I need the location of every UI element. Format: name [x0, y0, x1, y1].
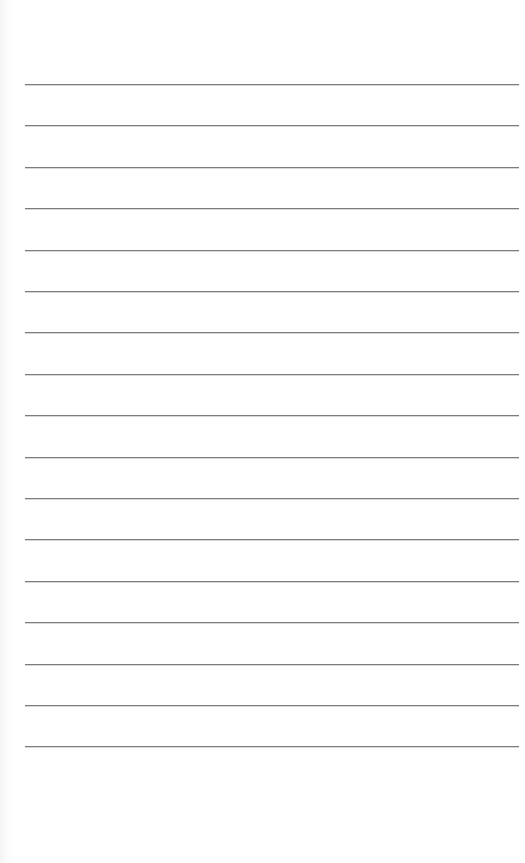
ruled-line [25, 84, 519, 85]
ruled-line [25, 250, 519, 251]
ruled-line [25, 498, 519, 499]
ruled-line [25, 374, 519, 375]
ruled-line [25, 457, 519, 458]
ruled-line [25, 581, 519, 582]
lined-paper-sheet [0, 0, 525, 863]
ruled-line [25, 746, 519, 747]
ruled-line [25, 167, 519, 168]
ruled-line [25, 125, 519, 126]
ruled-line [25, 332, 519, 333]
ruled-line [25, 208, 519, 209]
ruled-line [25, 622, 519, 623]
ruled-line [25, 291, 519, 292]
ruled-line [25, 664, 519, 665]
ruled-line [25, 539, 519, 540]
ruled-line [25, 415, 519, 416]
ruled-line [25, 705, 519, 706]
